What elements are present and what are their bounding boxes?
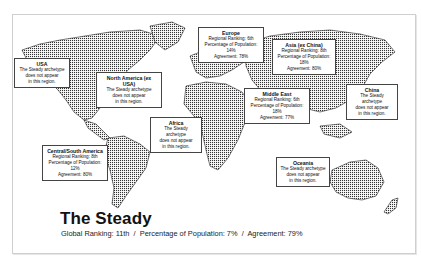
global-ranking: Global Ranking: 11th <box>61 229 129 238</box>
agreement: Agreement: 79% <box>247 229 302 238</box>
continent-south-america <box>104 136 150 208</box>
callout-china: China The Steady archetype does not appe… <box>346 84 398 120</box>
callout-line: The Steady archetype <box>154 126 198 138</box>
continent-southeast-asia <box>320 124 352 138</box>
callout-usa: USA The Steady archetype does not appear… <box>14 58 70 88</box>
callout-north-america: North America (ex USA) The Steady archet… <box>96 72 162 108</box>
callout-line: Agreement: 80% <box>46 172 104 178</box>
callout-line: Agreement: 78% <box>202 54 260 60</box>
callout-line: in this region. <box>100 99 158 105</box>
callout-line: Percentage of Population: 18% <box>248 103 306 115</box>
continent-australia <box>330 160 384 200</box>
separator: / <box>134 229 136 238</box>
callout-oceania: Oceania The Steady archetype does not ap… <box>276 157 330 187</box>
callout-line: Percentage of Population: 14% <box>202 42 260 54</box>
archetype-title: The Steady <box>60 209 152 229</box>
callout-line: in this region. <box>154 144 198 150</box>
callout-africa: Africa The Steady archetype does not app… <box>150 117 202 153</box>
continent-greenland <box>150 22 185 50</box>
continent-new-zealand <box>384 198 398 214</box>
callout-line: Agreement: 80% <box>276 66 332 72</box>
callout-asia: Asia (ex China) Regional Ranking: 8th Pe… <box>272 39 336 75</box>
separator: / <box>242 229 244 238</box>
population-percentage: Percentage of Population: 7% <box>140 229 238 238</box>
continent-central-america <box>84 120 110 140</box>
callout-line: in this region. <box>350 111 394 117</box>
callout-line: Percentage of Population: 18% <box>276 54 332 66</box>
callout-line: in this region. <box>280 178 326 184</box>
callout-central-south-america: Central/South America Regional Ranking: … <box>42 145 108 181</box>
callout-title: North America (ex USA) <box>100 75 158 87</box>
callout-line: Agreement: 77% <box>248 115 306 121</box>
archetype-stats: Global Ranking: 11th / Percentage of Pop… <box>61 229 303 238</box>
callout-europe: Europe Regional Ranking: 6th Percentage … <box>198 27 264 63</box>
callout-line: The Steady archetype <box>350 93 394 105</box>
callout-middle-east: Middle East Regional Ranking: 6th Percen… <box>244 88 310 124</box>
callout-line: in this region. <box>18 79 66 85</box>
callout-line: Percentage of Population: 12% <box>46 160 104 172</box>
